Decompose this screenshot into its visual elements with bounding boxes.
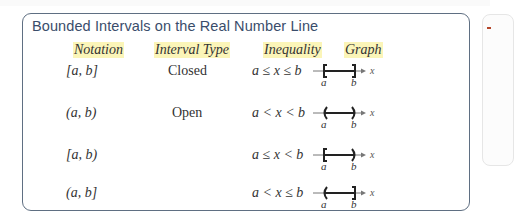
header-notation: Notation (73, 42, 124, 58)
svg-text:a: a (321, 198, 327, 209)
svg-text:b: b (351, 160, 357, 171)
red-marker (487, 27, 491, 29)
box-title: Bounded Intervals on the Real Number Lin… (32, 18, 318, 34)
notation-cell: (a, b) (66, 105, 96, 121)
interval-type-cell: Open (172, 105, 202, 121)
half-open-right-interval-graph-icon: x a b (313, 141, 393, 171)
svg-text:a: a (321, 76, 327, 87)
open-interval-graph-icon: x a b (313, 99, 393, 129)
svg-text:b: b (351, 118, 357, 129)
half-open-left-interval-graph-icon: x a b (313, 179, 393, 209)
closed-interval-graph-icon: x a b (313, 57, 393, 87)
svg-text:x: x (369, 187, 375, 198)
notation-cell: (a, b] (66, 185, 97, 201)
svg-text:x: x (369, 65, 375, 76)
svg-text:x: x (369, 107, 375, 118)
page-top-edge (0, 0, 490, 6)
inequality-cell: a ≤ x ≤ b (252, 63, 302, 79)
inequality-cell: a < x < b (252, 105, 305, 121)
header-inequality: Inequality (263, 42, 322, 58)
svg-text:a: a (321, 118, 327, 129)
svg-text:b: b (351, 198, 357, 209)
header-interval-type: Interval Type (154, 42, 230, 58)
bounded-intervals-box: Bounded Intervals on the Real Number Lin… (22, 13, 470, 211)
inequality-cell: a ≤ x < b (252, 147, 303, 163)
interval-type-cell: Closed (168, 63, 207, 79)
header-graph: Graph (344, 42, 383, 58)
notation-cell: [a, b) (66, 147, 97, 163)
adjacent-card-edge (482, 14, 514, 166)
notation-cell: [a, b] (66, 63, 98, 79)
svg-text:x: x (369, 149, 375, 160)
svg-text:b: b (351, 76, 357, 87)
inequality-cell: a < x ≤ b (252, 185, 303, 201)
svg-text:a: a (321, 160, 327, 171)
